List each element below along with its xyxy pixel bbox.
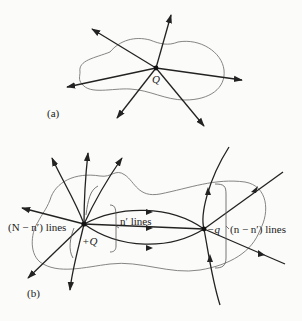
- field-lines-a: [67, 15, 242, 126]
- negative-charge-label: −q: [207, 223, 220, 235]
- charge-q-a: [154, 66, 159, 71]
- bracket-right-label: (n − n′) lines: [230, 223, 286, 236]
- panel-a-label: (a): [47, 107, 60, 120]
- panel-b: (N − n′) lines n′ lines (n − n′) lines +…: [8, 147, 286, 305]
- panel-a: Q (a): [47, 15, 242, 126]
- charge-positive-Q: [81, 221, 86, 226]
- bracket-left-label: (N − n′) lines: [8, 221, 66, 234]
- charge-negative-q: [202, 227, 207, 232]
- gauss-law-diagram: Q (a): [0, 0, 302, 321]
- bracket-middle-label: n′ lines: [120, 215, 151, 227]
- positive-charge-label: +Q: [82, 235, 97, 247]
- panel-b-label: (b): [27, 287, 40, 300]
- charge-label-a: Q: [152, 73, 160, 85]
